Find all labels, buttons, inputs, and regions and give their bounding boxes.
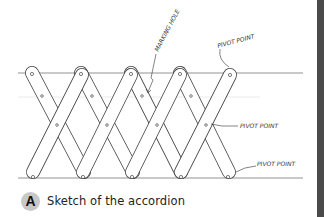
svg-text:PIVOT POINT: PIVOT POINT (240, 122, 279, 129)
slats-up-right (33, 75, 230, 172)
caption-text: Sketch of the accordion (47, 194, 185, 208)
side-bar (317, 0, 324, 217)
svg-text:MARKING HOLE: MARKING HOLE (153, 8, 181, 53)
pivot-point-middle-annotation: PIVOT POINT (211, 122, 279, 129)
caption-badge: A (21, 192, 40, 211)
svg-text:PIVOT POINT: PIVOT POINT (216, 32, 256, 49)
pivot-point-bottom-annotation: PIVOT POINT (236, 160, 296, 172)
figure-caption: A Sketch of the accordion (21, 190, 185, 212)
pivot-point-top-annotation: PIVOT POINT (216, 32, 256, 67)
accordion-sketch: MARKING HOLE PIVOT POINT PIVOT POINT PIV… (0, 0, 317, 185)
svg-text:PIVOT POINT: PIVOT POINT (257, 160, 296, 167)
